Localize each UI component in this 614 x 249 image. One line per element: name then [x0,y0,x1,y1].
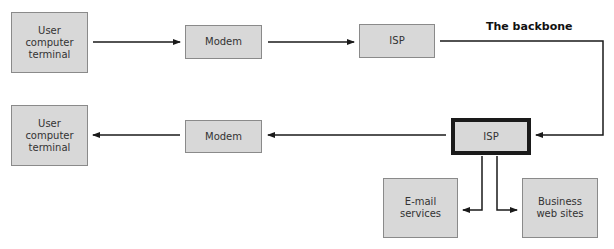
node-label: Modem [205,131,242,143]
node-label: Modem [205,36,242,48]
node-label: ISP [389,35,404,47]
node-label: ISP [483,131,498,143]
node-label: Business web sites [536,196,583,220]
backbone-label: The backbone [486,20,572,33]
arrow-isp-to-business [497,156,517,210]
arrow-isp-to-email [463,156,482,210]
node-modem-top: Modem [185,25,262,59]
node-label: E-mail services [400,196,441,220]
node-user-terminal-top: User computer terminal [11,12,88,73]
node-isp-bottom: ISP [451,118,531,155]
node-isp-top: ISP [359,24,435,58]
node-email-services: E-mail services [383,178,458,238]
node-label: User computer terminal [25,118,73,154]
node-business-web-sites: Business web sites [522,178,598,238]
node-modem-bottom: Modem [185,120,262,153]
node-label: User computer terminal [25,25,73,61]
node-user-terminal-bottom: User computer terminal [11,105,88,166]
